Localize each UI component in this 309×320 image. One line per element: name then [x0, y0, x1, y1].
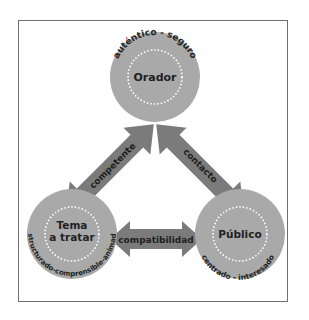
node-orador: Orador auténtico - seguro: [110, 27, 200, 122]
orador-label: Orador: [133, 71, 177, 84]
communication-triangle-diagram: competente contacto compatibilidad Orado…: [0, 0, 309, 320]
tema-label-line1: Tema: [57, 219, 88, 231]
arrow-label-competente: competente: [88, 141, 138, 191]
arrow-label-compatibilidad: compatibilidad: [118, 235, 193, 245]
publico-label: Público: [218, 228, 261, 240]
node-publico: Público centrado - interesado: [195, 189, 285, 282]
arrow-tema-publico: compatibilidad: [110, 221, 202, 257]
tema-label-line2: a tratar: [49, 231, 95, 243]
node-tema: Tema a tratar estructurado-comprensible-…: [0, 0, 118, 279]
